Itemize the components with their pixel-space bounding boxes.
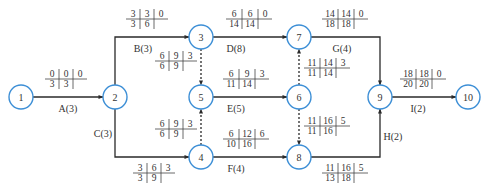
- table-cell-top: 3: [188, 119, 193, 129]
- table-cell-top: 11: [307, 58, 316, 68]
- table-cell-top: 6: [260, 129, 265, 139]
- activity-a: A(3): [33, 97, 103, 115]
- network-diagram: A(3)B(3)C(3)D(8)E(5)F(4)G(4)H(2)I(2) 000…: [0, 0, 497, 189]
- table-cell-top: 3: [138, 163, 143, 173]
- time-table: 6601414: [226, 9, 272, 29]
- time-table: 111651318: [322, 163, 368, 183]
- table-cell-bottom: 3: [64, 79, 69, 89]
- time-table: 61261016: [223, 129, 269, 149]
- time-table: 6931114: [223, 69, 269, 89]
- table-cell-top: 11: [307, 116, 316, 126]
- activity-f: F(4): [213, 157, 287, 175]
- table-cell-top: 0: [78, 69, 83, 79]
- table-cell-top: 0: [50, 69, 55, 79]
- table-cell-top: 6: [152, 163, 157, 173]
- table-cell-top: 6: [232, 9, 237, 19]
- activity-edges: A(3)B(3)C(3)D(8)E(5)F(4)G(4)H(2)I(2): [33, 37, 456, 175]
- table-cell-bottom: 6: [160, 61, 165, 71]
- activity-label: H(2): [384, 131, 403, 143]
- time-table: 33036: [126, 9, 168, 29]
- table-cell-top: 14: [341, 9, 351, 19]
- time-table: 69369: [155, 51, 197, 71]
- time-table: 69369: [155, 119, 197, 139]
- table-cell-bottom: 9: [174, 61, 179, 71]
- node-8: 8: [287, 145, 311, 169]
- table-cell-top: 5: [341, 116, 346, 126]
- activity-label: D(8): [227, 43, 246, 55]
- table-cell-bottom: 11: [307, 126, 316, 136]
- activity-label: G(4): [333, 43, 352, 55]
- node-6: 6: [287, 85, 311, 109]
- table-cell-top: 3: [131, 9, 136, 19]
- table-cell-bottom: 18: [325, 19, 335, 29]
- table-cell-top: 0: [64, 69, 69, 79]
- table-cell-bottom: 10: [226, 139, 236, 149]
- node-label: 10: [463, 92, 473, 103]
- node-label: 9: [378, 92, 383, 103]
- time-table: 141401818: [322, 9, 368, 29]
- table-cell-bottom: 14: [245, 19, 255, 29]
- activity-label: C(3): [94, 128, 112, 140]
- table-cell-top: 3: [341, 58, 346, 68]
- activity-g: G(4): [311, 37, 380, 85]
- activity-label: I(2): [411, 103, 426, 115]
- node-label: 3: [199, 32, 204, 43]
- table-cell-bottom: 16: [242, 139, 252, 149]
- node-1: 1: [9, 85, 33, 109]
- table-cell-top: 16: [323, 116, 333, 126]
- table-cell-top: 9: [174, 119, 179, 129]
- table-cell-bottom: 18: [341, 19, 351, 29]
- table-cell-bottom: 3: [131, 19, 136, 29]
- time-table: 111431114: [304, 58, 350, 78]
- table-cell-bottom: 11: [307, 68, 316, 78]
- table-cell-bottom: 6: [160, 129, 165, 139]
- node-label: 2: [113, 92, 118, 103]
- node-5: 5: [189, 85, 213, 109]
- table-cell-bottom: 14: [323, 68, 333, 78]
- table-cell-top: 0: [437, 69, 442, 79]
- table-cell-top: 6: [248, 9, 253, 19]
- table-cell-top: 3: [166, 163, 171, 173]
- table-cell-bottom: 9: [174, 129, 179, 139]
- node-7: 7: [287, 25, 311, 49]
- table-cell-bottom: 14: [229, 19, 239, 29]
- table-cell-bottom: 14: [242, 79, 252, 89]
- table-cell-top: 6: [160, 119, 165, 129]
- node-label: 8: [297, 152, 302, 163]
- time-table: 181802020: [400, 69, 446, 89]
- node-4: 4: [189, 145, 213, 169]
- table-cell-bottom: 16: [323, 126, 333, 136]
- node-2: 2: [103, 85, 127, 109]
- table-cell-bottom: 3: [50, 79, 55, 89]
- table-cell-bottom: 20: [403, 79, 413, 89]
- activity-label: E(5): [227, 103, 245, 115]
- table-cell-top: 16: [341, 163, 351, 173]
- table-cell-top: 3: [188, 51, 193, 61]
- node-label: 5: [199, 92, 204, 103]
- node-10: 10: [456, 85, 480, 109]
- activity-label: B(3): [134, 43, 152, 55]
- table-cell-bottom: 11: [226, 79, 235, 89]
- node-label: 7: [297, 32, 302, 43]
- table-cell-bottom: 6: [145, 19, 150, 29]
- activity-label: A(3): [59, 103, 78, 115]
- activity-d: D(8): [213, 37, 287, 55]
- table-cell-bottom: 20: [419, 79, 429, 89]
- node-9: 9: [368, 85, 392, 109]
- activity-i: I(2): [392, 97, 456, 115]
- table-cell-top: 11: [325, 163, 334, 173]
- table-cell-bottom: 3: [138, 173, 143, 183]
- table-cell-top: 18: [403, 69, 413, 79]
- activity-e: E(5): [213, 97, 287, 115]
- table-cell-top: 5: [359, 163, 364, 173]
- table-cell-bottom: 18: [341, 173, 351, 183]
- table-cell-top: 0: [263, 9, 268, 19]
- table-cell-top: 3: [260, 69, 265, 79]
- arrow-edge: [311, 109, 380, 157]
- table-cell-top: 12: [242, 129, 252, 139]
- table-cell-top: 0: [159, 9, 164, 19]
- node-3: 3: [189, 25, 213, 49]
- node-label: 4: [199, 152, 204, 163]
- table-cell-top: 6: [160, 51, 165, 61]
- table-cell-top: 18: [419, 69, 429, 79]
